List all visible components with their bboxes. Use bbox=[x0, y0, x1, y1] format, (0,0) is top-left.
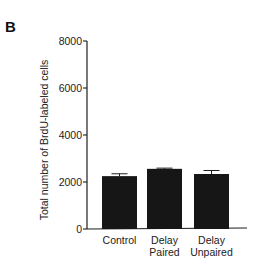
bar-delay-unpaired bbox=[194, 174, 229, 229]
bars bbox=[102, 168, 229, 229]
y-tick-label: 0 bbox=[76, 223, 82, 235]
x-tick-label: Unpaired bbox=[190, 246, 233, 258]
y-tick-label: 4000 bbox=[59, 129, 83, 141]
figure: B Total number of BrdU-labeled cells 020… bbox=[0, 0, 264, 276]
x-tick-labels: ControlDelayPairedDelayUnpaired bbox=[103, 234, 233, 258]
bar-chart: 02000400060008000 ControlDelayPairedDela… bbox=[0, 0, 264, 276]
y-tick-label: 6000 bbox=[59, 82, 83, 94]
x-tick-label: Delay bbox=[198, 234, 226, 246]
x-tick-label: Control bbox=[103, 234, 137, 246]
bar-control bbox=[102, 176, 137, 229]
x-tick-label: Paired bbox=[149, 246, 180, 258]
y-tick-label: 8000 bbox=[59, 35, 83, 47]
bar-delay-paired bbox=[147, 169, 182, 229]
y-tick-label: 2000 bbox=[59, 176, 83, 188]
x-tick-label: Delay bbox=[151, 234, 179, 246]
